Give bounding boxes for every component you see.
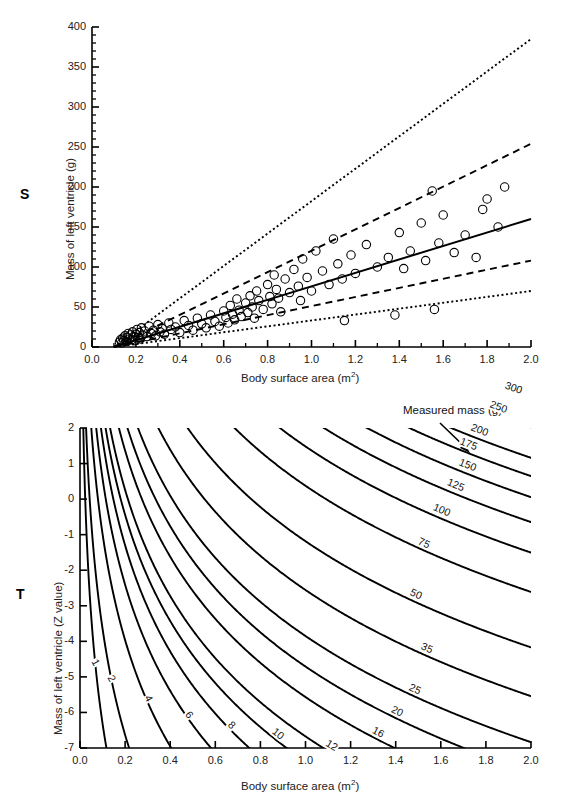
panel-s-xtick-1.4: 1.4 xyxy=(379,353,419,365)
scatter-point xyxy=(430,305,438,313)
contour-line-12 xyxy=(99,354,485,809)
contour-lines xyxy=(83,350,531,809)
panel-t-ytick--1: -1 xyxy=(40,528,74,540)
panel-t-xtick-0.0: 0.0 xyxy=(60,754,100,766)
contour-line-6 xyxy=(90,351,298,809)
panel-s-xtick-0.8: 0.8 xyxy=(248,353,288,365)
contour-line-16 xyxy=(104,351,531,803)
panel-t-ytick-0: 0 xyxy=(40,492,74,504)
scatter-point xyxy=(233,295,241,303)
panel-s-xtick-0.4: 0.4 xyxy=(160,353,200,365)
scatter-point xyxy=(461,231,469,239)
panel-s-ytick-300: 300 xyxy=(50,100,86,112)
panel-t-xtick-0.2: 0.2 xyxy=(105,754,145,766)
scatter-point xyxy=(226,301,234,309)
scatter-point xyxy=(399,264,407,272)
panel-s-ytick-100: 100 xyxy=(50,260,86,272)
panel-s-plot xyxy=(0,0,576,400)
scatter-point xyxy=(176,328,184,336)
panel-t: T Mass of left ventricle (Z value) Body … xyxy=(0,400,576,809)
scatter-point xyxy=(439,211,447,219)
panel-t-xtick-1.8: 1.8 xyxy=(466,754,506,766)
scatter-points xyxy=(115,183,509,347)
panel-t-ytick--7: -7 xyxy=(40,741,74,753)
scatter-point xyxy=(215,322,223,330)
scatter-point xyxy=(450,248,458,256)
panel-s-xtick-1.8: 1.8 xyxy=(467,353,507,365)
scatter-point xyxy=(340,316,348,324)
panel-s-ytick-150: 150 xyxy=(50,220,86,232)
contour-line-4 xyxy=(87,352,232,809)
reference-line-upper-inner xyxy=(114,144,531,347)
scatter-point xyxy=(270,271,278,279)
scatter-point xyxy=(189,326,197,334)
panel-t-ytick--4: -4 xyxy=(40,634,74,646)
figure-container: S Mass of left ventricle (g) Body surfac… xyxy=(0,0,576,809)
panel-t-xtick-1.4: 1.4 xyxy=(376,754,416,766)
panel-s: S Mass of left ventricle (g) Body surfac… xyxy=(0,0,576,400)
panel-s-ytick-250: 250 xyxy=(50,140,86,152)
scatter-point xyxy=(435,239,443,247)
panel-s-xtick-1.2: 1.2 xyxy=(335,353,375,365)
contour-line-20 xyxy=(109,355,531,773)
scatter-point xyxy=(259,305,267,313)
scatter-point xyxy=(318,267,326,275)
scatter-point xyxy=(472,253,480,261)
panel-t-ytick--2: -2 xyxy=(40,563,74,575)
panel-t-xtick-1.6: 1.6 xyxy=(421,754,461,766)
scatter-point xyxy=(483,195,491,203)
panel-t-xtick-0.8: 0.8 xyxy=(240,754,280,766)
scatter-point xyxy=(294,282,302,290)
contour-line-8 xyxy=(93,352,362,809)
scatter-point xyxy=(180,316,188,324)
panel-s-ytick-350: 350 xyxy=(50,60,86,72)
scatter-point xyxy=(395,228,403,236)
panel-t-xtick-2.0: 2.0 xyxy=(511,754,551,766)
reference-line-lower-inner xyxy=(114,261,531,347)
scatter-point xyxy=(290,265,298,273)
panel-t-xtick-0.4: 0.4 xyxy=(150,754,190,766)
scatter-point xyxy=(406,247,414,255)
panel-s-xtick-0.6: 0.6 xyxy=(204,353,244,365)
reference-line-lower-outer xyxy=(114,291,531,347)
scatter-point xyxy=(296,296,304,304)
scatter-point xyxy=(417,219,425,227)
panel-t-xtick-1.2: 1.2 xyxy=(331,754,371,766)
panel-s-ytick-50: 50 xyxy=(50,300,86,312)
scatter-point xyxy=(391,311,399,319)
scatter-point xyxy=(263,280,271,288)
panel-s-xtick-1.6: 1.6 xyxy=(423,353,463,365)
scatter-point xyxy=(421,256,429,264)
panel-t-ytick--3: -3 xyxy=(40,599,74,611)
panel-t-plot xyxy=(0,400,576,809)
panel-t-xtick-0.6: 0.6 xyxy=(195,754,235,766)
scatter-point xyxy=(281,275,289,283)
scatter-point xyxy=(362,240,370,248)
panel-s-xtick-2.0: 2.0 xyxy=(511,353,551,365)
scatter-point xyxy=(303,273,311,281)
panel-t-ytick--6: -6 xyxy=(40,705,74,717)
contour-line-25 xyxy=(115,352,531,742)
scatter-point xyxy=(500,183,508,191)
reference-line-upper-outer xyxy=(114,39,531,347)
panel-t-ytick--5: -5 xyxy=(40,670,74,682)
panel-s-ytick-200: 200 xyxy=(50,180,86,192)
scatter-point xyxy=(211,317,219,325)
panel-t-ytick-2: 2 xyxy=(40,421,74,433)
scatter-point xyxy=(384,253,392,261)
panel-s-xtick-0.0: 0.0 xyxy=(72,353,112,365)
scatter-point xyxy=(252,287,260,295)
scatter-point xyxy=(334,260,342,268)
panel-s-xtick-1.0: 1.0 xyxy=(292,353,332,365)
scatter-point xyxy=(479,205,487,213)
panel-t-xtick-1.0: 1.0 xyxy=(286,754,326,766)
panel-s-ytick-0: 0 xyxy=(50,340,86,352)
panel-s-xtick-0.2: 0.2 xyxy=(116,353,156,365)
scatter-point xyxy=(272,285,280,293)
panel-s-ytick-400: 400 xyxy=(50,20,86,32)
scatter-point xyxy=(307,287,315,295)
panel-t-ytick-1: 1 xyxy=(40,457,74,469)
contour-line-10 xyxy=(96,353,424,809)
scatter-point xyxy=(347,251,355,259)
